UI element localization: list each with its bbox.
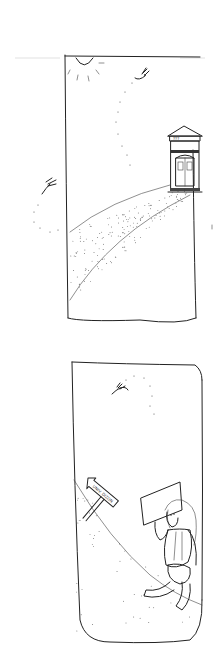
speckle [173, 209, 174, 210]
speckle [99, 248, 100, 249]
trail-dot [50, 232, 51, 233]
speckle [140, 218, 141, 219]
speckle [149, 215, 150, 216]
speckle [146, 228, 147, 229]
speckle [158, 575, 159, 576]
speckle [111, 262, 112, 263]
speckle [159, 213, 160, 214]
panel-2: UNIV. DIZON [66, 362, 202, 643]
speckle [123, 221, 124, 222]
speckle [135, 242, 136, 243]
speckle [79, 287, 80, 288]
speckle [124, 214, 125, 215]
speckle [164, 198, 165, 199]
building-band [171, 150, 199, 153]
speckle [97, 261, 98, 262]
speckle [178, 191, 179, 192]
speckle [81, 614, 82, 615]
speckle [133, 227, 134, 228]
speckle [73, 270, 74, 271]
speckle [95, 243, 96, 244]
speckle [136, 206, 137, 207]
speckle [160, 216, 161, 217]
hill-path-edge [70, 185, 170, 232]
speckle [70, 256, 71, 257]
speckle [181, 201, 182, 202]
speckle [145, 566, 146, 567]
speckle [116, 215, 117, 216]
speckle [148, 203, 149, 204]
panel-1: ??? [15, 55, 212, 322]
trail-dot [152, 396, 153, 397]
trail-dot [40, 228, 41, 229]
speckle [120, 236, 121, 237]
speckle [103, 249, 104, 250]
speckle [124, 551, 125, 552]
speckle [82, 589, 83, 590]
speckle [127, 221, 128, 222]
speckle [148, 213, 149, 214]
trail-dot [118, 134, 119, 135]
comic-canvas: ??? [0, 0, 218, 665]
trail-dot [34, 222, 35, 223]
speckle [134, 594, 135, 595]
speckle [164, 215, 165, 216]
speckle [89, 513, 90, 514]
speckle [180, 198, 181, 199]
trail-dot [130, 165, 131, 166]
trail-dot [154, 414, 155, 415]
speckle [101, 232, 102, 233]
speckle [77, 277, 78, 278]
trail-dot [34, 212, 35, 213]
speckle [119, 544, 120, 545]
speckle [80, 238, 81, 239]
speckle [186, 193, 187, 194]
speckle [94, 535, 95, 536]
speckle [76, 592, 77, 593]
speckle [129, 210, 130, 211]
speckle [76, 252, 77, 253]
outside-trail [34, 205, 59, 233]
speckle [97, 237, 98, 238]
speckle [103, 244, 104, 245]
speckle [106, 263, 107, 264]
speckle [166, 203, 167, 204]
speckle [182, 622, 183, 623]
trail-dot [125, 92, 126, 93]
speckle [127, 226, 128, 227]
speckle [134, 208, 135, 209]
speckle [128, 219, 129, 220]
speckle [98, 268, 99, 269]
trail-dot [120, 102, 121, 103]
trail-dot [127, 155, 128, 156]
speckle [75, 256, 76, 257]
speckle [79, 284, 80, 285]
speckle [169, 196, 170, 197]
speckle [71, 282, 72, 283]
trail-dot [150, 386, 151, 387]
speckle [91, 226, 92, 227]
trail-dot [126, 380, 127, 381]
speckle [140, 219, 141, 220]
speckle [111, 227, 112, 228]
speckle [85, 274, 86, 275]
speckle [170, 602, 171, 603]
trail-dot [116, 122, 117, 123]
held-sign [141, 482, 182, 525]
speckle [160, 219, 161, 220]
speckle [78, 498, 79, 499]
speckle [90, 281, 91, 282]
speckle [156, 215, 157, 216]
speckle [122, 227, 123, 228]
speckle [138, 212, 139, 213]
dragonfly-icon [135, 68, 149, 79]
speckle [102, 238, 103, 239]
trail-dot [38, 205, 39, 206]
speckle [157, 210, 158, 211]
speckle [176, 196, 177, 197]
speckle [84, 500, 85, 501]
speckle [177, 199, 178, 200]
speckle [124, 241, 125, 242]
building-icon: ??? [168, 126, 202, 192]
speckle [136, 226, 137, 227]
